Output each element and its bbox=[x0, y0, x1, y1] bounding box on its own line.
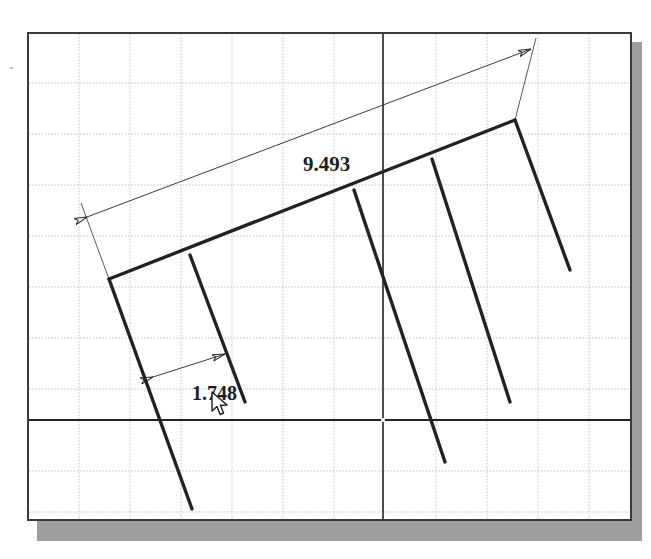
dimension-value-9493[interactable]: 9.493 bbox=[303, 152, 350, 177]
tooth-3 bbox=[354, 190, 445, 462]
tooth-2 bbox=[190, 255, 245, 402]
dimension-leader bbox=[87, 49, 531, 217]
rake-spine bbox=[109, 120, 515, 279]
extension-line-right bbox=[515, 38, 536, 120]
dimension-leader-small bbox=[153, 354, 225, 377]
geometry-layer[interactable] bbox=[109, 120, 570, 509]
drawing-sheet[interactable]: 9.493 1.748 bbox=[27, 32, 632, 521]
sketch-canvas[interactable] bbox=[29, 34, 630, 519]
mouse-pointer bbox=[211, 391, 231, 423]
tooth-1 bbox=[109, 279, 192, 509]
tooth-4 bbox=[432, 159, 510, 402]
cad-sketch-app: 9.493 1.748 bbox=[0, 0, 651, 559]
tooth-spacing-dimension[interactable] bbox=[153, 354, 225, 377]
stray-speck bbox=[10, 67, 13, 69]
tooth-5 bbox=[515, 120, 570, 270]
origin-marker bbox=[381, 418, 385, 422]
